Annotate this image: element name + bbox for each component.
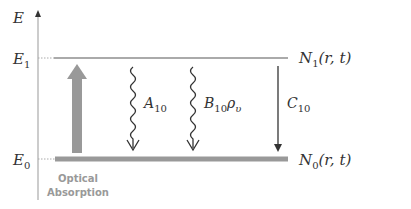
axis-arrowhead-icon: [35, 10, 41, 17]
absorption-label-line1: Optical: [58, 173, 98, 184]
energy-axis: [35, 10, 41, 200]
collisional-arrow-icon: [274, 66, 282, 152]
lower-population-label: N0(r, t): [298, 151, 351, 171]
energy-level-diagram: E E1 E0 Optical Absorption A10 B10ρυ C10…: [0, 0, 411, 209]
stimulated-label: B10ρυ: [203, 95, 241, 114]
absorption-label-line2: Absorption: [47, 187, 109, 198]
spontaneous-label: A10: [142, 95, 167, 114]
stimulated-emission-wavy-arrow-icon: [187, 67, 199, 150]
absorption-arrow-icon: [67, 64, 87, 153]
upper-energy-label: E1: [12, 50, 30, 70]
spontaneous-emission-wavy-arrow-icon: [127, 67, 139, 150]
axis-label: E: [12, 9, 24, 27]
upper-population-label: N1(r, t): [298, 49, 351, 69]
collisional-label: C10: [287, 95, 310, 114]
lower-energy-label: E0: [12, 151, 30, 171]
